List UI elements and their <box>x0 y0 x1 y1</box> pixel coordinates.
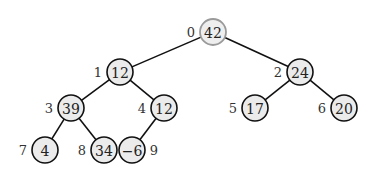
tree-edges <box>52 37 334 140</box>
node-index-label: 1 <box>94 65 102 80</box>
node-index-label: 5 <box>229 101 237 116</box>
node-value: 34 <box>95 143 113 159</box>
node-index-label: 3 <box>45 101 53 116</box>
tree-edge <box>81 80 109 101</box>
tree-edge <box>132 37 201 67</box>
node-value: 39 <box>62 101 80 117</box>
node-value: 12 <box>111 65 129 81</box>
tree-node-7: 47 <box>19 137 58 163</box>
node-value: 4 <box>41 143 50 159</box>
tree-node-6: 206 <box>318 95 357 121</box>
node-index-label: 2 <box>274 65 282 80</box>
node-value: 42 <box>204 25 222 41</box>
tree-nodes: 42012124239312417520647348−69 <box>19 19 357 163</box>
tree-node-5: 175 <box>229 95 268 121</box>
node-value: 17 <box>246 101 264 117</box>
node-index-label: 8 <box>78 143 86 158</box>
node-index-label: 9 <box>150 143 158 158</box>
tree-edge <box>130 80 154 100</box>
node-index-label: 4 <box>138 101 146 116</box>
node-value: 12 <box>155 101 173 117</box>
tree-node-4: 124 <box>138 95 177 121</box>
tree-node-9: −69 <box>119 137 158 163</box>
tree-node-3: 393 <box>45 95 84 121</box>
tree-edge <box>225 37 288 66</box>
tree-edge <box>52 119 64 139</box>
tree-node-8: 348 <box>78 137 117 163</box>
node-value: 24 <box>291 65 309 81</box>
tree-edge <box>310 80 334 100</box>
node-index-label: 0 <box>187 25 195 40</box>
node-value: −6 <box>122 143 143 159</box>
tree-edge <box>265 80 290 100</box>
node-index-label: 6 <box>318 101 326 116</box>
tree-node-1: 121 <box>94 59 133 85</box>
tree-edge <box>79 118 96 140</box>
tree-edge <box>140 118 156 139</box>
heap-tree-diagram: 42012124239312417520647348−69 <box>0 0 373 173</box>
node-index-label: 7 <box>19 143 27 158</box>
node-value: 20 <box>335 101 353 117</box>
